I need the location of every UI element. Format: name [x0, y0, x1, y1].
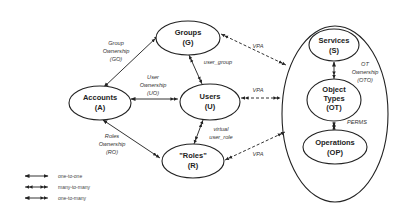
label-vpa-users: VPA [253, 87, 264, 93]
label-virtual-user-role-line1: virtual [214, 126, 230, 132]
node-users-abbr: (U) [205, 102, 216, 111]
node-operations[interactable]: Operations (OP) [303, 130, 367, 164]
label-vpa-roles: VPA [253, 151, 264, 157]
label-ot-ownership-line2: Ownership [352, 69, 379, 75]
node-object-types[interactable]: Object Types (OT) [307, 79, 361, 121]
node-accounts-abbr: (A) [95, 103, 106, 112]
label-perms: PERMS [347, 119, 367, 125]
label-virtual-user-role: virtual user_role [209, 126, 232, 140]
node-operations-abbr: (OP) [327, 148, 343, 157]
label-vpa-groups: VPA [253, 43, 264, 49]
node-services[interactable]: Services (S) [309, 29, 359, 61]
label-roles-ownership-line3: (RO) [106, 149, 118, 155]
legend-one-to-many-label: one-to-many [58, 195, 87, 201]
legend-many-to-many-label: many-to-many [58, 184, 90, 190]
node-groups[interactable]: Groups (G) [156, 21, 220, 55]
node-accounts[interactable]: Accounts (A) [69, 86, 131, 120]
node-operations-name: Operations [315, 138, 355, 147]
node-object-types-line2: Types [323, 94, 344, 103]
label-ot-ownership: OT Ownership (OTO) [352, 61, 379, 83]
label-group-ownership-line1: Group [108, 40, 124, 46]
legend: one-to-one many-to-many one-to-many [25, 173, 90, 201]
node-users[interactable]: Users (U) [180, 84, 240, 120]
node-object-types-abbr: (OT) [326, 103, 342, 112]
node-services-name: Services [319, 36, 350, 45]
label-user-ownership-line3: (UO) [147, 90, 159, 96]
edge-user-group [189, 55, 202, 84]
edge-virtual-user-role [194, 120, 203, 144]
node-services-abbr: (S) [329, 46, 340, 55]
label-group-ownership-line2: Ownership [103, 48, 130, 54]
node-roles[interactable]: "Roles" (R) [162, 144, 224, 178]
legend-one-to-one: one-to-one [25, 173, 82, 179]
access-control-diagram: Accounts (A) Groups (G) Users (U) "Roles… [0, 0, 401, 212]
node-groups-abbr: (G) [183, 38, 194, 47]
label-group-ownership-line3: (GO) [110, 56, 123, 62]
label-user-ownership-line1: User [147, 74, 160, 80]
node-groups-name: Groups [175, 28, 202, 37]
legend-one-to-many: one-to-many [25, 195, 87, 201]
label-user-group: user_group [204, 59, 232, 65]
node-accounts-name: Accounts [83, 93, 117, 102]
node-object-types-line1: Object [322, 85, 346, 94]
label-ot-ownership-line1: OT [361, 61, 369, 67]
legend-one-to-one-label: one-to-one [58, 173, 82, 179]
label-roles-ownership-line2: Ownership [99, 141, 126, 147]
legend-many-to-many: many-to-many [25, 184, 90, 190]
node-roles-name: "Roles" [179, 151, 207, 160]
label-virtual-user-role-line2: user_role [209, 134, 232, 140]
label-user-ownership: User Ownership (UO) [140, 74, 167, 96]
node-users-name: Users [200, 92, 221, 101]
label-roles-ownership-line1: Roles [105, 133, 120, 139]
node-roles-abbr: (R) [188, 161, 199, 170]
label-ot-ownership-line3: (OTO) [357, 77, 373, 83]
label-user-ownership-line2: Ownership [140, 82, 167, 88]
label-roles-ownership: Roles Ownership (RO) [99, 133, 126, 155]
label-group-ownership: Group Ownership (GO) [103, 40, 130, 62]
